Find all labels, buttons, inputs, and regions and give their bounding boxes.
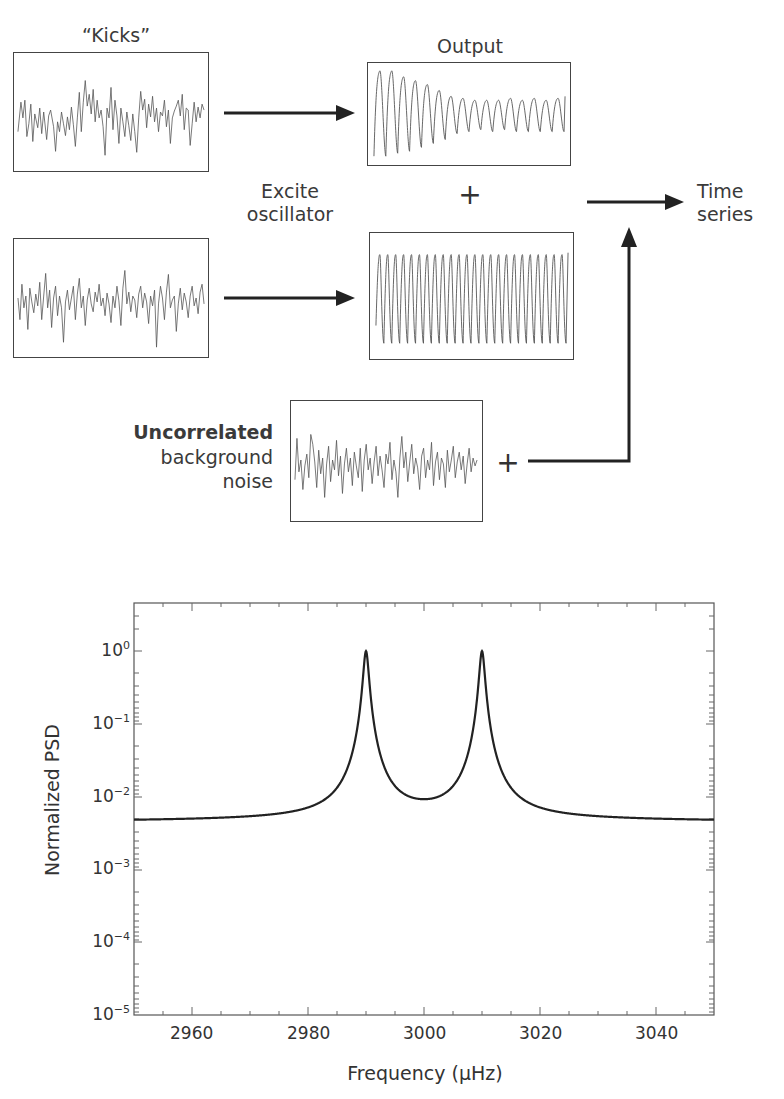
excite-label-line2: oscillator	[225, 203, 355, 226]
excite-oscillator-label: Excite oscillator	[225, 180, 355, 226]
x-tick-label-3040: 3040	[635, 1023, 678, 1043]
time-series-label: Time series	[697, 180, 777, 226]
output-label: Output	[400, 35, 540, 58]
y-ticks	[134, 616, 714, 1012]
noise-signal-1	[14, 53, 208, 171]
x-tick-label-2960: 2960	[170, 1023, 213, 1043]
noise-signal-3	[291, 401, 482, 521]
x-tick-label-2980: 2980	[287, 1023, 330, 1043]
time-series-line1: Time	[697, 180, 777, 203]
arrow-to-time-series	[585, 190, 685, 214]
psd-curve	[134, 651, 714, 820]
damped-sinusoid	[368, 63, 570, 165]
excite-label-line1: Excite	[225, 180, 355, 203]
kicks-noise-panel-1	[13, 52, 209, 172]
arrow-kicks-to-output-1	[222, 100, 357, 126]
arrow-noise-to-time-series	[525, 225, 640, 470]
psd-chart: Normalized PSD 100 10−1 10−2 10−3 10−4 1…	[0, 560, 784, 1099]
noise-label-line3: noise	[120, 469, 273, 494]
plus-sign-noise: +	[488, 446, 528, 479]
x-tick-label-3020: 3020	[519, 1023, 562, 1043]
x-ticks	[163, 603, 685, 1015]
arrow-kicks-to-output-2	[222, 285, 357, 311]
noise-label-line2: background	[120, 445, 273, 470]
x-axis-title: Frequency (μHz)	[300, 1062, 550, 1084]
noise-signal-2	[14, 239, 208, 357]
plot-area	[0, 560, 784, 1099]
noise-label-bold: Uncorrelated	[120, 420, 273, 445]
plot-frame	[134, 603, 714, 1015]
x-tick-label-3000: 3000	[403, 1023, 446, 1043]
kicks-label: “Kicks”	[42, 24, 190, 47]
background-noise-panel	[290, 400, 483, 522]
plus-sign-outputs: +	[450, 178, 490, 211]
damped-oscillation-panel	[367, 62, 571, 166]
time-series-line2: series	[697, 203, 777, 226]
background-noise-label: Uncorrelated background noise	[120, 420, 273, 494]
kicks-noise-panel-2	[13, 238, 209, 358]
